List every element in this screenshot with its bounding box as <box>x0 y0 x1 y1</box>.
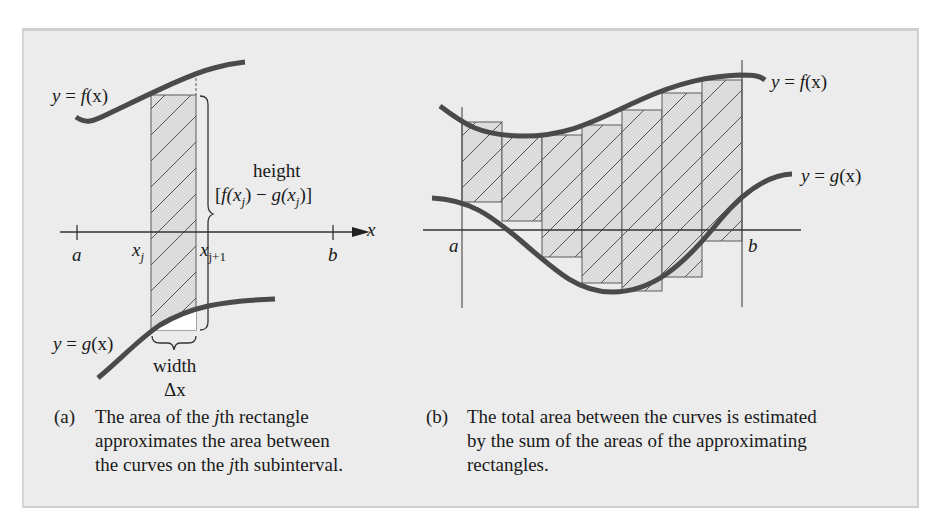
tick-label-b: b <box>328 245 338 264</box>
rect-2 <box>502 135 542 221</box>
width-label: width <box>153 356 196 375</box>
caption-b-tag: (b) <box>426 405 448 429</box>
caption-a: (a) The area of the jth rectangle approx… <box>54 405 394 477</box>
caption-b-line1: The total area between the curves is est… <box>467 405 886 429</box>
f-label-a: y = f(x) <box>52 86 108 105</box>
width-symbol: Δx <box>164 380 186 399</box>
caption-a-line3: the curves on the jth subinterval. <box>95 453 394 477</box>
panel-b-graph <box>423 60 801 308</box>
tick-label-a-b: a <box>449 236 459 255</box>
height-brace <box>200 96 213 330</box>
g-label-a: y = g(x) <box>53 334 113 353</box>
height-expression: [f(xj) − g(xj)] <box>215 185 312 204</box>
f-label-b: y = f(x) <box>771 72 827 91</box>
caption-a-tag: (a) <box>54 405 75 429</box>
width-brace <box>152 336 196 350</box>
caption-a-line2: approximates the area between <box>95 429 394 453</box>
rect-3 <box>542 135 582 257</box>
tick-label-a: a <box>72 245 82 264</box>
tick-label-b-b: b <box>748 236 758 255</box>
jth-rectangle <box>151 95 196 330</box>
tick-label-xj: xj <box>132 240 144 259</box>
caption-b-line2: by the sum of the areas of the approxima… <box>467 429 886 453</box>
g-label-b: y = g(x) <box>801 166 861 185</box>
rect-5 <box>622 110 662 291</box>
x-axis-label: x <box>367 220 375 239</box>
rect-4 <box>582 125 622 283</box>
height-label: height <box>253 161 301 180</box>
tick-label-xj1: xj+1 <box>200 240 226 259</box>
caption-a-line1: The area of the jth rectangle <box>95 405 394 429</box>
panel-a-graph <box>60 62 370 378</box>
caption-b: (b) The total area between the curves is… <box>426 405 886 477</box>
caption-b-line3: rectangles. <box>467 453 886 477</box>
